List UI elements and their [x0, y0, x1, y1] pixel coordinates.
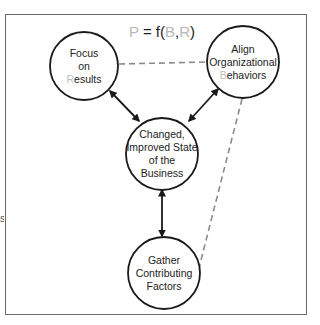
node-focus-on-results: Focus on Results	[50, 32, 118, 100]
formula-eq: = f(	[139, 23, 165, 40]
node-label-line: Changed,	[126, 128, 197, 141]
node-label-rest: esults	[74, 73, 101, 85]
dashed-link-results-behaviors	[119, 62, 207, 64]
node-align-organizational-behaviors: Align Organizational Behaviors	[207, 26, 279, 98]
node-label-line: Improved State	[126, 141, 197, 154]
node-label-line: Factors	[136, 280, 193, 293]
node-label-line: on	[66, 60, 101, 73]
node-label-line: Contributing	[136, 267, 193, 280]
formula-close: )	[190, 23, 195, 40]
node-label-line: Business	[126, 167, 197, 180]
node-label-rest: ehaviors	[227, 69, 267, 81]
node-label-line: Focus	[66, 47, 101, 60]
dashed-link-behaviors-factors	[199, 99, 242, 268]
formula-title: P = f(B,R)	[112, 23, 212, 40]
highlight-letter-r: R	[66, 73, 74, 85]
node-label-line: Results	[66, 73, 101, 86]
formula-r: R	[179, 23, 190, 40]
formula-p: P	[129, 23, 139, 40]
formula-b: B	[165, 23, 175, 40]
highlight-letter-b: B	[220, 69, 227, 81]
node-label-line: Align	[209, 43, 277, 56]
node-label-line: Organizational	[209, 56, 277, 69]
node-gather-contributing-factors: Gather Contributing Factors	[128, 237, 200, 309]
node-label-line: of the	[126, 154, 197, 167]
node-label-line: Behaviors	[209, 69, 277, 82]
node-changed-improved-state: Changed, Improved State of the Business	[126, 118, 198, 190]
node-label-line: Gather	[136, 254, 193, 267]
